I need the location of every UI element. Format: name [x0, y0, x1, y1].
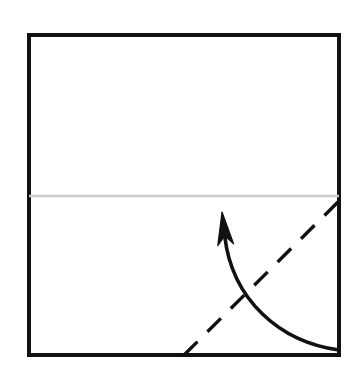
diagram-canvas: [0, 0, 358, 380]
origami-fold-diagram: [0, 0, 358, 380]
